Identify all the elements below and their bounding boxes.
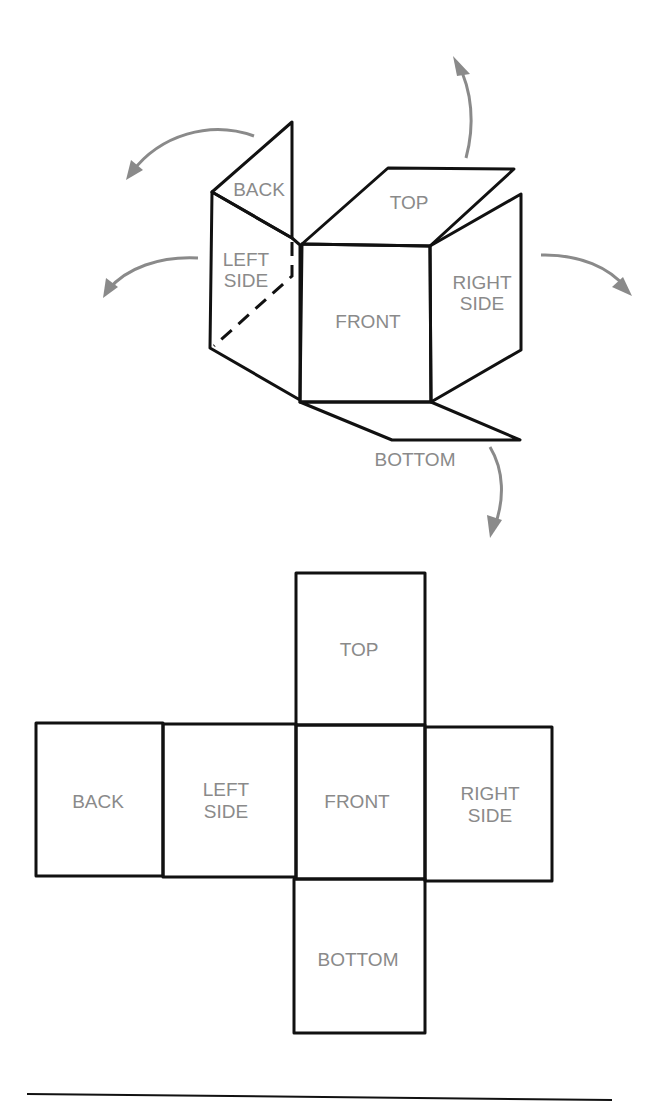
folded-bottom-label: BOTTOM: [375, 449, 456, 470]
net-bottom-label: BOTTOM: [318, 949, 399, 970]
net-top-label: TOP: [340, 639, 379, 660]
arrow-bottom-icon: [487, 447, 502, 538]
net-back-label: BACK: [72, 791, 124, 812]
horizontal-rule: [27, 1094, 612, 1100]
folded-left-side-panel: [210, 192, 300, 400]
arrow-right-side-icon: [541, 255, 632, 296]
net-right-side-label-line2: SIDE: [468, 805, 512, 826]
folded-top-label: TOP: [390, 192, 429, 213]
folded-box: BACK LEFT SIDE TOP FRONT RIGHT SIDE BOTT…: [210, 122, 521, 470]
folded-right-side-label-line2: SIDE: [460, 293, 504, 314]
net-front-label: FRONT: [324, 791, 390, 812]
arrow-top-icon: [453, 56, 471, 158]
folded-left-side-label-line1: LEFT: [223, 249, 270, 270]
arrow-left-side-icon: [103, 258, 198, 298]
folded-right-side-label-line1: RIGHT: [452, 272, 512, 293]
net-right-side-panel: [425, 727, 552, 881]
folded-left-side-label-line2: SIDE: [224, 270, 268, 291]
net-left-side-label-line2: SIDE: [204, 801, 248, 822]
flat-net: TOP BACK LEFT SIDE FRONT RIGHT SIDE BOTT…: [36, 573, 552, 1033]
folded-front-label: FRONT: [335, 311, 401, 332]
folded-back-label: BACK: [233, 179, 285, 200]
folded-bottom-panel: [300, 402, 520, 440]
cube-net-diagram: BACK LEFT SIDE TOP FRONT RIGHT SIDE BOTT…: [0, 0, 658, 1103]
fold-arrows: [103, 56, 632, 538]
net-right-side-label-line1: RIGHT: [460, 783, 520, 804]
net-left-side-label-line1: LEFT: [203, 779, 250, 800]
